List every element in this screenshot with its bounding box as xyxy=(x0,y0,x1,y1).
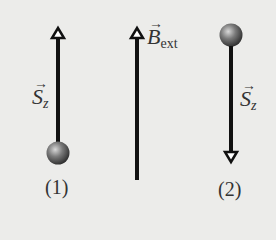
particle-ball-1 xyxy=(47,142,70,165)
external-field-label: →Bext xyxy=(147,26,178,51)
spin-label-2: →Sz xyxy=(240,88,256,113)
external-field-arrow xyxy=(131,28,143,180)
particle-ball-2 xyxy=(220,24,243,47)
spin-down-arrow-2 xyxy=(225,46,237,162)
particle-label-2: (2) xyxy=(218,178,241,201)
particle-label-1: (1) xyxy=(45,176,68,199)
spin-label-1: →Sz xyxy=(32,86,48,111)
spin-up-arrow-1 xyxy=(52,28,64,145)
